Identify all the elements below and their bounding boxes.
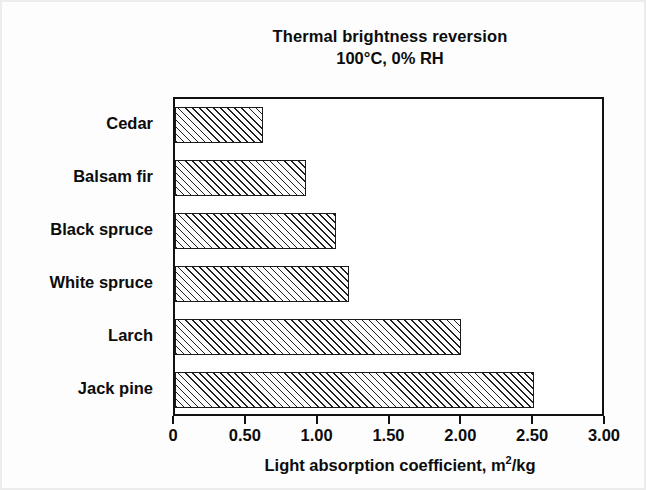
- y-axis-label-1: Balsam fir: [73, 150, 153, 203]
- x-axis-tick-2: [316, 416, 318, 424]
- x-axis-tick-4: [459, 416, 461, 424]
- chart-subtitle-text: 100°C, 0% RH: [336, 49, 443, 67]
- x-axis-tick-label-4: 2.00: [444, 426, 476, 445]
- y-axis-category-labels: Cedar Balsam fir Black spruce White spru…: [2, 97, 163, 416]
- x-axis-tick-label-0: 0: [168, 426, 177, 445]
- bar-row: [175, 99, 602, 152]
- x-axis-tick-label-5: 2.50: [516, 426, 548, 445]
- bars-container: [175, 99, 602, 414]
- y-axis-label-4: Larch: [108, 309, 153, 362]
- bar-larch: [175, 319, 461, 355]
- bar-row: [175, 258, 602, 311]
- chart-subtitle: 100°C, 0% RH: [132, 48, 646, 69]
- figure-container: Thermal brightness reversion 100°C, 0% R…: [0, 0, 646, 490]
- x-axis-tick-label-1: 0.50: [229, 426, 261, 445]
- chart-title-block: Thermal brightness reversion 100°C, 0% R…: [2, 26, 646, 68]
- x-axis-title-base: Light absorption coefficient, m: [264, 456, 505, 474]
- y-axis-label-3: White spruce: [49, 256, 153, 309]
- bar-cedar: [175, 107, 263, 143]
- bar-white-spruce: [175, 266, 349, 302]
- bar-row: [175, 311, 602, 364]
- bar-jack-pine: [175, 372, 534, 408]
- x-axis-tick-label-2: 1.00: [301, 426, 333, 445]
- y-axis-label-2: Black spruce: [50, 203, 153, 256]
- plot-area: [173, 97, 604, 416]
- bar-row: [175, 205, 602, 258]
- y-axis-label-0: Cedar: [106, 97, 153, 150]
- page-title: Thermal brightness reversion: [132, 26, 646, 47]
- x-axis-tick-6: [603, 416, 605, 424]
- bar-row: [175, 364, 602, 417]
- x-axis-tick-5: [531, 416, 533, 424]
- x-axis-tick-3: [388, 416, 390, 424]
- x-axis-tick-label-6: 3.00: [588, 426, 620, 445]
- y-axis-label-5: Jack pine: [78, 362, 153, 415]
- bar-row: [175, 152, 602, 205]
- x-axis-title: Light absorption coefficient, m2/kg: [2, 454, 646, 475]
- bar-balsam-fir: [175, 160, 306, 196]
- x-axis-title-tail: /kg: [512, 456, 536, 474]
- x-axis-tick-0: [172, 416, 174, 424]
- x-axis-tick-1: [244, 416, 246, 424]
- x-axis-tick-label-3: 1.50: [372, 426, 404, 445]
- bar-black-spruce: [175, 213, 336, 249]
